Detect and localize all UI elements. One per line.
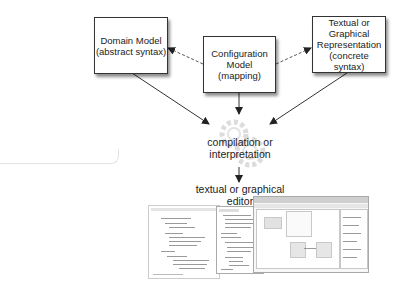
configuration-model-line2: Model bbox=[211, 59, 268, 70]
representation-line2: Graphical bbox=[313, 28, 385, 39]
configuration-model-box: Configuration Model (mapping) bbox=[203, 36, 276, 93]
process-line1: compilation or bbox=[180, 136, 300, 148]
editor-screenshot-graphical bbox=[253, 196, 369, 273]
configuration-model-line3: (mapping) bbox=[211, 70, 268, 81]
editor-screenshot-text bbox=[148, 205, 220, 279]
representation-line4: (concrete syntax) bbox=[313, 50, 385, 72]
domain-model-title: Domain Model bbox=[96, 35, 166, 46]
domain-model-subtitle: (abstract syntax) bbox=[96, 46, 166, 57]
representation-line3: Representation bbox=[313, 39, 385, 50]
edge-config-to-representation bbox=[276, 48, 311, 64]
output-line1: textual or graphical bbox=[180, 183, 300, 195]
configuration-model-line1: Configuration bbox=[211, 48, 268, 59]
edge-representation-to-process bbox=[270, 73, 347, 124]
process-label: compilation or interpretation bbox=[180, 136, 300, 160]
representation-box: Textual or Graphical Representation (con… bbox=[312, 16, 386, 73]
representation-line1: Textual or bbox=[313, 17, 385, 28]
edge-config-to-domain bbox=[168, 48, 203, 64]
process-line2: interpretation bbox=[180, 148, 300, 160]
edge-domain-to-process bbox=[132, 73, 209, 124]
domain-model-box: Domain Model (abstract syntax) bbox=[94, 17, 168, 74]
